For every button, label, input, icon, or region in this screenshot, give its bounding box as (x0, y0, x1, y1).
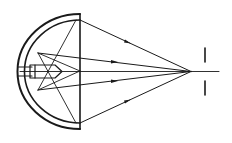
arrow-icon (124, 40, 131, 44)
reflector-diagram (0, 0, 232, 143)
arrow-icon (124, 100, 131, 104)
